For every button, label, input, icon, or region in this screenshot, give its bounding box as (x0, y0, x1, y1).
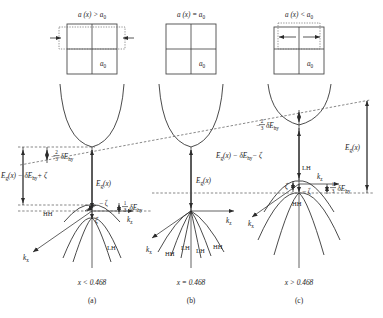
lh-label-a: LH (107, 244, 116, 251)
panel-a: a (x) > a0 a0 Eg(x) (0, 11, 152, 305)
lattice-label-a: a0 (100, 60, 107, 69)
svg-text:3: 3 (261, 125, 264, 131)
svg-text:1: 1 (124, 200, 127, 206)
eg-label-b: Eg(x) (195, 177, 212, 186)
svg-text:δEhy: δEhy (338, 185, 351, 194)
svg-text:3: 3 (332, 188, 335, 194)
svg-text:2: 2 (55, 149, 58, 155)
kx-axis-a (33, 211, 92, 252)
lattice-cell-c: a (x) < a0 a0 (274, 11, 324, 74)
third-shift-label-a: 1 3 δEhy (122, 200, 143, 213)
svg-text:δEhy: δEhy (130, 204, 143, 213)
effective-gap-label-c: Eg(x) − δEhy− ζ (215, 151, 263, 161)
lattice-title-c: a (x) < a0 (285, 11, 313, 20)
effective-gap-label-a: Eg(x) − δEhy+ ζ (0, 171, 48, 181)
lh-label-left-b: LH (181, 244, 190, 251)
kx-label-a: kx (23, 254, 29, 263)
lattice-label-c: a0 (307, 60, 314, 69)
svg-text:3: 3 (55, 156, 58, 162)
lh-label-right-b: LH (196, 247, 205, 254)
lh-label-c: LH (302, 164, 311, 171)
svg-text:2: 2 (261, 118, 264, 124)
minus-zeta-label-c: − ζ (302, 187, 311, 196)
lattice-label-b: a0 (199, 60, 206, 69)
kz-label-b: kz (226, 217, 232, 226)
hydrostatic-shift-label-c: − 2 3 δEhy (256, 118, 279, 131)
hh-label-a: HH (43, 210, 53, 217)
caption-c: (c) (295, 296, 304, 305)
hh-branch-2-a (73, 218, 92, 262)
lattice-title-a: a (x) > a0 (78, 11, 106, 20)
zeta-label-a: ζ (95, 216, 99, 225)
kx-label-b: kx (146, 246, 152, 255)
eg-label-c: Eg(x) (344, 144, 361, 153)
svg-text:1: 1 (332, 181, 335, 187)
figure-canvas: a (x) > a0 a0 Eg(x) (0, 0, 383, 318)
minus-zeta-arrow-a (85, 205, 96, 211)
caption-b: (b) (187, 296, 196, 305)
hh-label-left-b: HH (165, 250, 175, 257)
lattice-title-b: a (x) = a0 (177, 11, 205, 20)
svg-text:−: − (256, 122, 260, 130)
svg-text:δEhy: δEhy (266, 122, 279, 131)
kz-label-a: kz (127, 216, 133, 225)
hh-branch-2-c (299, 193, 324, 255)
conduction-band-b (159, 84, 223, 147)
lattice-cell-a: a (x) > a0 a0 (50, 11, 134, 74)
band-structure-figure: a (x) > a0 a0 Eg(x) (0, 0, 383, 318)
svg-text:3: 3 (124, 207, 127, 213)
kx-label-c: kx (248, 220, 254, 229)
hh-label-right-b: HH (213, 243, 223, 250)
eg-label-a: Eg(x) (95, 180, 112, 189)
hh-label-c: HH (292, 200, 302, 207)
condition-b: x = 0.468 (176, 278, 206, 287)
third-shift-label-c: 1 3 δEhy (330, 181, 351, 194)
condition-a: x < 0.468 (77, 278, 107, 287)
condition-c: x > 0.468 (284, 278, 314, 287)
caption-a: (a) (88, 296, 97, 305)
kz-label-c: kz (317, 173, 323, 182)
conduction-band-a (60, 84, 124, 147)
lattice-cell-b: a (x) = a0 a0 (166, 11, 216, 74)
conduction-band-c (268, 84, 331, 125)
minus-zeta-label-a: − ζ (99, 199, 108, 208)
